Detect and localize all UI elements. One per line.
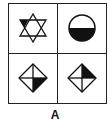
diamond-quarter-shaded-icon <box>65 61 99 95</box>
cell-diamond-bottom-right <box>9 54 58 104</box>
cell-hexagram <box>9 4 58 54</box>
cell-diamond-top-right <box>58 54 107 104</box>
hexagram-icon <box>18 12 48 44</box>
half-filled-circle-icon <box>67 13 97 43</box>
figure-grid <box>8 3 107 104</box>
figure-caption: A <box>0 109 110 121</box>
diamond-quarter-shaded-icon <box>16 61 50 95</box>
cell-half-circle <box>58 4 107 54</box>
